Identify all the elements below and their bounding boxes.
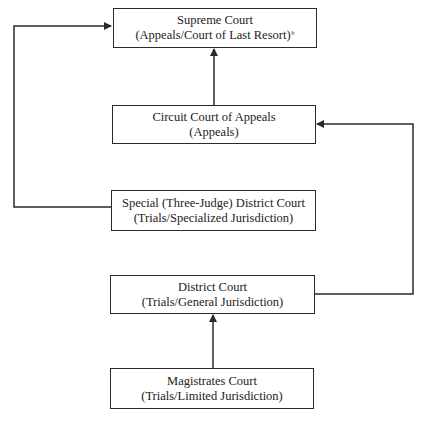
node-title: Circuit Court of Appeals <box>152 110 275 125</box>
node-title: Magistrates Court <box>167 374 257 389</box>
node-district-court: District Court (Trials/General Jurisdict… <box>110 275 315 314</box>
footnote-marker: b <box>292 30 295 36</box>
arrow-district-to-circuit <box>314 124 413 294</box>
node-subtitle: (Trials/General Jurisdiction) <box>142 295 284 310</box>
node-special-district-court: Special (Three-Judge) District Court (Tr… <box>111 190 316 231</box>
node-title: Supreme Court <box>177 13 253 28</box>
court-hierarchy-diagram: Supreme Court (Appeals/Court of Last Res… <box>0 0 426 422</box>
node-supreme-court: Supreme Court (Appeals/Court of Last Res… <box>113 8 317 48</box>
node-title: Special (Three-Judge) District Court <box>122 196 305 211</box>
node-subtitle: (Trials/Limited Jurisdiction) <box>141 389 283 404</box>
node-magistrates-court: Magistrates Court (Trials/Limited Jurisd… <box>110 368 314 409</box>
node-subtitle: (Appeals/Court of Last Resort)b <box>135 28 294 43</box>
arrow-special-to-supreme <box>14 26 111 207</box>
node-circuit-court: Circuit Court of Appeals (Appeals) <box>112 105 316 144</box>
node-subtitle: (Appeals) <box>189 125 238 140</box>
node-title: District Court <box>178 280 247 295</box>
node-subtitle: (Trials/Specialized Jurisdiction) <box>134 211 294 226</box>
